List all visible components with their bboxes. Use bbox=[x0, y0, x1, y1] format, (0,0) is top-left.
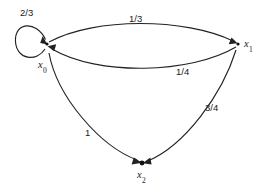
diagram-svg bbox=[0, 0, 260, 188]
edge-x0-x1-upper bbox=[49, 24, 238, 45]
edge-weight-x0-x2: 1 bbox=[85, 128, 90, 138]
node-label-x2-subscript: 2 bbox=[142, 176, 146, 185]
node-label-x0-name: x bbox=[38, 59, 43, 70]
node-dot-x2[interactable] bbox=[140, 161, 145, 166]
node-dot-x0[interactable] bbox=[45, 42, 48, 45]
edge-weight-x1-x2: 3/4 bbox=[205, 103, 218, 113]
edge-x1-x2 bbox=[143, 50, 237, 165]
edge-x1-x0-lower bbox=[48, 44, 237, 68]
node-label-x1-subscript: 1 bbox=[249, 45, 253, 54]
node-label-x1-name: x bbox=[244, 38, 249, 49]
node-label-x0-subscript: 0 bbox=[43, 66, 47, 75]
edge-x0-x0-selfloop bbox=[15, 26, 47, 57]
edge-path-x0-x2 bbox=[49, 53, 137, 160]
edge-path-x1-x0 bbox=[52, 47, 236, 68]
edge-path-x0-x1 bbox=[49, 24, 233, 43]
edge-weight-x0-x1: 1/3 bbox=[129, 14, 142, 24]
node-label-x0: x0 bbox=[38, 60, 46, 73]
edge-x0-x2 bbox=[49, 53, 142, 164]
edge-weight-x0-x0: 2/3 bbox=[20, 8, 33, 18]
node-label-x2-name: x bbox=[137, 169, 142, 180]
arrowhead-x1-upper bbox=[229, 37, 238, 44]
node-dot-x1[interactable] bbox=[236, 42, 239, 45]
node-label-x1: x1 bbox=[244, 39, 252, 52]
edge-path-x1-x2 bbox=[148, 50, 236, 161]
transition-diagram: x0 x1 x2 2/3 1/3 1/4 3/4 1 bbox=[0, 0, 260, 188]
edge-weight-x1-x0: 1/4 bbox=[176, 67, 189, 77]
node-label-x2: x2 bbox=[137, 170, 145, 183]
